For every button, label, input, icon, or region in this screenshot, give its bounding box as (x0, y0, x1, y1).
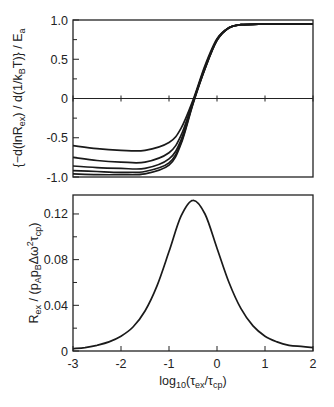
top-panel: 1.00.50-0.5-1.0 {−d(lnRex) / d(1/kBT)} /… (11, 14, 313, 185)
figure: 1.00.50-0.5-1.0 {−d(lnRex) / d(1/kBT)} /… (0, 0, 334, 407)
x-tick-label: 1 (262, 357, 269, 371)
y-tick-label: 0.08 (44, 253, 68, 267)
bottom-panel: 0.120.080.040 -3-2-1012 Rex / (pApBΔω2τc… (25, 195, 317, 390)
bottom-curves (73, 200, 313, 348)
bottom-plot-frame (73, 195, 313, 351)
y-tick-label: 0.5 (51, 53, 68, 67)
top-y-axis-label: {−d(lnRex) / d(1/kBT)} / Ea (11, 28, 27, 167)
y-tick-label: 0 (61, 92, 68, 106)
y-tick-label: 0.12 (44, 207, 68, 221)
curve-R_ex (73, 200, 313, 348)
curve-curve-2 (73, 24, 313, 163)
y-tick-label: -0.5 (46, 131, 68, 145)
x-tick-label: -3 (67, 357, 78, 371)
x-tick-label: -1 (163, 357, 174, 371)
x-tick-label: 2 (310, 357, 317, 371)
y-tick-label: -1.0 (46, 171, 68, 185)
bottom-x-axis-label: log10(τex/τcp) (159, 374, 226, 390)
x-tick-label: 0 (214, 357, 221, 371)
curve-curve-1 (73, 24, 313, 151)
y-tick-label: 1.0 (51, 14, 68, 28)
top-y-ticks: 1.00.50-0.5-1.0 (46, 14, 79, 185)
bottom-y-axis-label: Rex / (pApBΔω2τcp) (25, 223, 43, 324)
y-tick-label: 0.04 (44, 299, 68, 313)
curve-curve-3 (73, 24, 313, 169)
x-tick-label: -2 (115, 357, 126, 371)
bottom-x-ticks: -3-2-1012 (67, 346, 316, 371)
bottom-y-ticks: 0.120.080.040 (44, 207, 79, 358)
top-curves (73, 24, 313, 175)
